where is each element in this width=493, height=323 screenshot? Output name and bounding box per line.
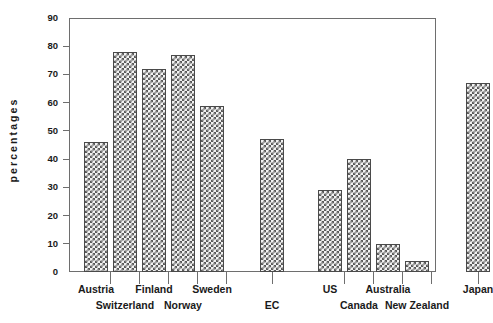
bar-finland — [142, 69, 166, 272]
x-axis-label-finland: Finland — [135, 283, 172, 295]
x-axis-label-japan: Japan — [463, 283, 493, 295]
bars-layer — [69, 18, 436, 272]
y-axis-tick-label: 40 — [47, 153, 58, 164]
bar-new-zealand — [405, 261, 429, 272]
bar-us — [318, 190, 342, 272]
y-axis-tick-label: 0 — [53, 266, 58, 277]
y-axis-tick-label: 70 — [47, 68, 58, 79]
bar-ec — [260, 139, 284, 272]
x-axis-label-new-zealand: New Zealand — [385, 299, 449, 311]
x-axis-label-sweden: Sweden — [192, 283, 232, 295]
x-axis-tick-mark — [272, 272, 273, 284]
bar-japan — [466, 83, 490, 272]
y-axis-tick-label: 20 — [47, 210, 58, 221]
bar-australia — [376, 244, 400, 272]
x-axis-label-norway: Norway — [164, 299, 202, 311]
bar-austria — [84, 142, 108, 272]
x-axis-tick-mark — [431, 272, 432, 284]
x-axis-label-ec: EC — [265, 299, 280, 311]
y-axis-tick-label: 10 — [47, 238, 58, 249]
x-axis-label-austria: Austria — [78, 283, 114, 295]
x-axis-label-australia: Australia — [366, 283, 411, 295]
y-axis-tick-label: 50 — [47, 125, 58, 136]
x-axis-label-canada: Canada — [340, 299, 378, 311]
y-axis-tick-label: 30 — [47, 181, 58, 192]
bar-norway — [171, 55, 195, 272]
bar-canada — [347, 159, 371, 272]
bar-sweden — [200, 106, 224, 273]
y-axis-title: percentages — [0, 0, 26, 280]
bar-switzerland — [113, 52, 137, 272]
y-axis-tick-label: 90 — [47, 12, 58, 23]
y-axis-tick-label: 60 — [47, 97, 58, 108]
x-axis-label-switzerland: Switzerland — [96, 299, 154, 311]
y-axis-tick-label: 80 — [47, 40, 58, 51]
y-axis-title-text: percentages — [7, 98, 19, 183]
x-axis-label-us: US — [323, 283, 338, 295]
x-axis-tick-mark — [344, 272, 345, 284]
